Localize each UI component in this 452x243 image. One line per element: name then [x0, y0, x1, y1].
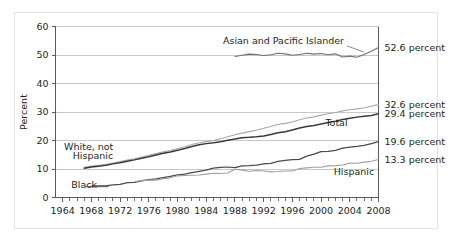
xtick-label-1996: 1996 [280, 205, 304, 216]
right-value-label-13-3: 13.3 percent [385, 154, 446, 165]
series-label-black: Black [71, 179, 97, 190]
series-label-asian-pacific-islander: Asian and Pacific Islander [223, 35, 344, 46]
xtick-label-1972: 1972 [108, 205, 132, 216]
series-label-hispanic: Hispanic [334, 166, 374, 177]
ytick-label-30: 30 [36, 106, 48, 117]
xtick-label-1976: 1976 [137, 205, 161, 216]
right-value-label-52-6: 52.6 percent [385, 42, 446, 53]
series-label-white-not-hispanic-line2: Hispanic [73, 150, 113, 161]
ytick-label-10: 10 [36, 163, 48, 174]
xtick-label-2004: 2004 [338, 205, 362, 216]
ytick-label-0: 0 [42, 192, 48, 203]
ytick-label-50: 50 [36, 49, 48, 60]
series-line-white-not-hispanic [84, 105, 378, 168]
y-axis-title: Percent [18, 94, 29, 130]
xtick-label-1992: 1992 [252, 205, 276, 216]
line-chart-svg: 0102030405060196419681972197619801984198… [0, 0, 452, 243]
series-line-asian-and-pacific-islander [235, 48, 379, 58]
series-label-total: Total [324, 117, 347, 128]
chart-figure: 0102030405060196419681972197619801984198… [0, 0, 452, 243]
xtick-label-1984: 1984 [194, 205, 218, 216]
right-value-label-19-6: 19.6 percent [385, 136, 446, 147]
xtick-label-2000: 2000 [309, 205, 333, 216]
ytick-label-40: 40 [36, 78, 48, 89]
xtick-label-1988: 1988 [223, 205, 247, 216]
xtick-label-2008: 2008 [366, 205, 390, 216]
xtick-label-1968: 1968 [79, 205, 103, 216]
xtick-label-1980: 1980 [165, 205, 189, 216]
right-value-label-29-4: 29.4 percent [385, 108, 446, 119]
xtick-label-1964: 1964 [51, 205, 75, 216]
leader-line-asian [347, 46, 364, 52]
series-line-black [91, 142, 378, 186]
ytick-label-60: 60 [36, 21, 48, 32]
ytick-label-20: 20 [36, 135, 48, 146]
